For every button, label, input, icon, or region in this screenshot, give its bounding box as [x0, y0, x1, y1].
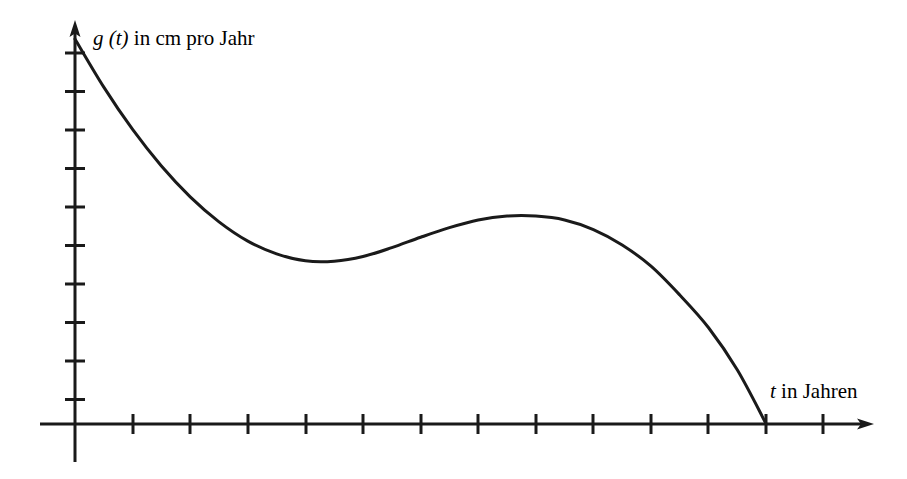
- function-curve-g: [75, 39, 766, 424]
- figure-canvas: g (t) in cm pro Jahr t in Jahren: [0, 0, 907, 479]
- y-axis-label: g (t) in cm pro Jahr: [93, 28, 255, 49]
- x-axis-label-rest: in Jahren: [776, 379, 858, 403]
- plot-area: [0, 0, 907, 479]
- x-axis-label: t in Jahren: [770, 381, 858, 402]
- y-axis-label-rest: in cm pro Jahr: [129, 26, 255, 50]
- y-axis-label-variable: g (t): [93, 26, 129, 50]
